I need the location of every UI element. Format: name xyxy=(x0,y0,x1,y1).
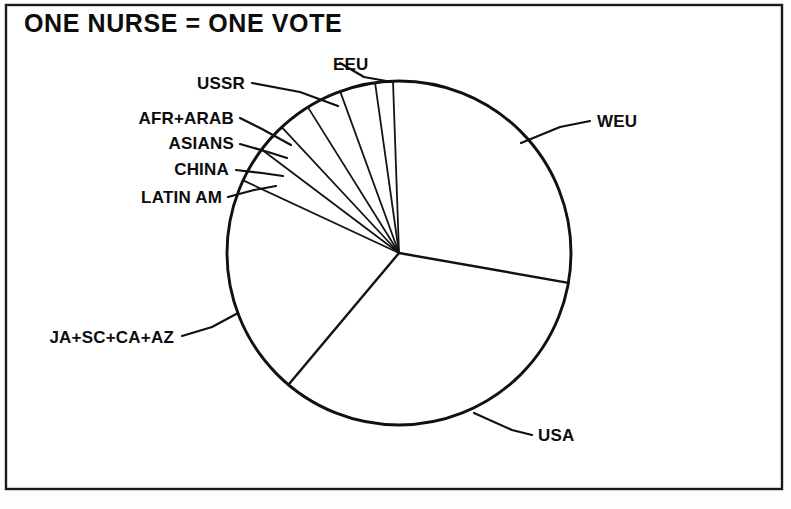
slice-label-weu: WEU xyxy=(597,112,637,131)
slice-label-ja-sc-ca-az: JA+SC+CA+AZ xyxy=(49,328,174,347)
pie-chart-svg: ONE NURSE = ONE VOTE EEU USSR AFR+ARAB A… xyxy=(0,0,791,509)
slice-label-eeu: EEU xyxy=(333,55,369,74)
pie-chart-figure: ONE NURSE = ONE VOTE EEU USSR AFR+ARAB A… xyxy=(0,0,791,509)
slice-label-usa: USA xyxy=(538,426,575,445)
slice-label-ussr: USSR xyxy=(197,74,245,93)
chart-title: ONE NURSE = ONE VOTE xyxy=(24,9,342,37)
slice-label-afr-arab: AFR+ARAB xyxy=(138,109,234,128)
slice-label-china: CHINA xyxy=(174,160,229,179)
slice-label-asians: ASIANS xyxy=(169,134,234,153)
slice-label-latin-am: LATIN AM xyxy=(141,188,222,207)
